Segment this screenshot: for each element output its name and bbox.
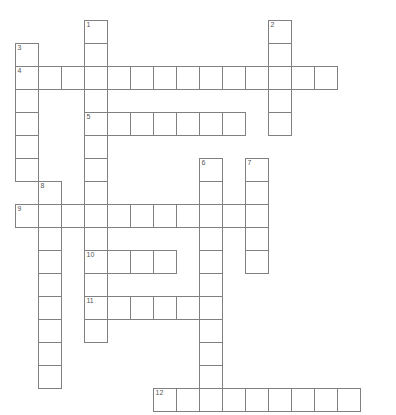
crossword-cell[interactable] [199, 342, 223, 366]
clue-number-4: 4 [18, 67, 22, 75]
clue-number-6: 6 [202, 159, 206, 167]
crossword-cell-numbered-7[interactable]: 7 [245, 158, 269, 182]
clue-number-7: 7 [248, 159, 252, 167]
crossword-cell[interactable] [38, 227, 62, 251]
crossword-cell[interactable] [84, 158, 108, 182]
crossword-cell[interactable] [176, 112, 200, 136]
crossword-cell[interactable] [84, 204, 108, 228]
crossword-cell-numbered-9[interactable]: 9 [15, 204, 39, 228]
crossword-cell[interactable] [38, 66, 62, 90]
crossword-cell[interactable] [61, 204, 85, 228]
crossword-cell[interactable] [199, 204, 223, 228]
crossword-cell[interactable] [291, 66, 315, 90]
crossword-cell[interactable] [245, 181, 269, 205]
crossword-cell-numbered-5[interactable]: 5 [84, 112, 108, 136]
crossword-cell[interactable] [84, 66, 108, 90]
crossword-cell[interactable] [245, 66, 269, 90]
crossword-cell[interactable] [222, 388, 246, 412]
crossword-cell[interactable] [38, 319, 62, 343]
crossword-cell-numbered-10[interactable]: 10 [84, 250, 108, 274]
crossword-cell[interactable] [199, 319, 223, 343]
crossword-puzzle: 151011234678912 [0, 0, 396, 415]
crossword-grid[interactable]: 151011234678912 [0, 0, 396, 415]
crossword-cell-numbered-12[interactable]: 12 [153, 388, 177, 412]
crossword-cell[interactable] [15, 158, 39, 182]
crossword-cell[interactable] [245, 250, 269, 274]
clue-number-9: 9 [18, 205, 22, 213]
crossword-cell[interactable] [84, 181, 108, 205]
crossword-cell[interactable] [245, 227, 269, 251]
crossword-cell[interactable] [61, 66, 85, 90]
crossword-cell[interactable] [107, 296, 131, 320]
crossword-cell[interactable] [268, 43, 292, 67]
crossword-cell[interactable] [291, 388, 315, 412]
crossword-cell[interactable] [199, 296, 223, 320]
crossword-cell[interactable] [107, 204, 131, 228]
crossword-cell[interactable] [84, 273, 108, 297]
crossword-cell[interactable] [38, 250, 62, 274]
crossword-cell[interactable] [38, 273, 62, 297]
crossword-cell[interactable] [153, 204, 177, 228]
clue-number-2: 2 [271, 21, 275, 29]
crossword-cell[interactable] [130, 66, 154, 90]
crossword-cell[interactable] [268, 112, 292, 136]
crossword-cell-numbered-4[interactable]: 4 [15, 66, 39, 90]
crossword-cell[interactable] [222, 66, 246, 90]
crossword-cell[interactable] [222, 112, 246, 136]
crossword-cell[interactable] [199, 66, 223, 90]
crossword-cell[interactable] [84, 319, 108, 343]
crossword-cell[interactable] [268, 66, 292, 90]
crossword-cell[interactable] [38, 296, 62, 320]
crossword-cell[interactable] [268, 388, 292, 412]
crossword-cell[interactable] [107, 112, 131, 136]
crossword-cell[interactable] [176, 388, 200, 412]
crossword-cell[interactable] [199, 112, 223, 136]
crossword-cell-numbered-3[interactable]: 3 [15, 43, 39, 67]
clue-number-11: 11 [87, 297, 94, 305]
crossword-cell[interactable] [314, 388, 338, 412]
crossword-cell[interactable] [38, 204, 62, 228]
crossword-cell[interactable] [38, 342, 62, 366]
crossword-cell[interactable] [153, 296, 177, 320]
crossword-cell[interactable] [84, 43, 108, 67]
crossword-cell[interactable] [84, 135, 108, 159]
crossword-cell-numbered-1[interactable]: 1 [84, 20, 108, 44]
crossword-cell[interactable] [176, 66, 200, 90]
crossword-cell[interactable] [107, 250, 131, 274]
crossword-cell[interactable] [84, 227, 108, 251]
crossword-cell[interactable] [199, 365, 223, 389]
crossword-cell[interactable] [245, 204, 269, 228]
crossword-cell[interactable] [245, 388, 269, 412]
crossword-cell[interactable] [199, 181, 223, 205]
crossword-cell[interactable] [153, 250, 177, 274]
crossword-cell-numbered-8[interactable]: 8 [38, 181, 62, 205]
crossword-cell[interactable] [153, 112, 177, 136]
clue-number-1: 1 [87, 21, 91, 29]
crossword-cell[interactable] [84, 89, 108, 113]
crossword-cell[interactable] [38, 365, 62, 389]
crossword-cell[interactable] [130, 204, 154, 228]
crossword-cell[interactable] [222, 204, 246, 228]
crossword-cell[interactable] [337, 388, 361, 412]
crossword-cell[interactable] [107, 66, 131, 90]
crossword-cell[interactable] [176, 296, 200, 320]
crossword-cell[interactable] [130, 250, 154, 274]
crossword-cell[interactable] [199, 227, 223, 251]
crossword-cell[interactable] [199, 273, 223, 297]
crossword-cell[interactable] [176, 204, 200, 228]
crossword-cell[interactable] [153, 66, 177, 90]
crossword-cell[interactable] [130, 112, 154, 136]
clue-number-3: 3 [18, 44, 22, 52]
clue-number-10: 10 [87, 251, 95, 259]
crossword-cell[interactable] [199, 388, 223, 412]
crossword-cell-numbered-11[interactable]: 11 [84, 296, 108, 320]
crossword-cell-numbered-2[interactable]: 2 [268, 20, 292, 44]
crossword-cell[interactable] [268, 89, 292, 113]
crossword-cell[interactable] [15, 112, 39, 136]
crossword-cell[interactable] [15, 89, 39, 113]
crossword-cell[interactable] [199, 250, 223, 274]
crossword-cell[interactable] [15, 135, 39, 159]
crossword-cell[interactable] [314, 66, 338, 90]
crossword-cell-numbered-6[interactable]: 6 [199, 158, 223, 182]
crossword-cell[interactable] [130, 296, 154, 320]
